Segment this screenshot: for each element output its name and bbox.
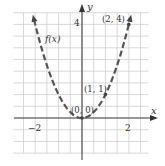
point-label-1-1: (1, 1)	[84, 84, 107, 94]
x-tick-label-neg2: −2	[28, 123, 41, 133]
x-tick-label-2: 2	[125, 123, 131, 133]
point-label-0-0: (0, 0)	[71, 105, 94, 115]
y-axis-arrow-icon	[79, 4, 85, 12]
y-axis-label: y	[86, 1, 93, 12]
function-label: f(x)	[44, 34, 61, 44]
curve-left-arrow-icon	[32, 15, 38, 23]
y-tick-label-4: 4	[74, 18, 80, 28]
data-point	[80, 116, 84, 120]
point-label-2-4: (2, 4)	[102, 14, 125, 24]
data-point	[127, 23, 131, 27]
x-axis-label: x	[151, 105, 157, 116]
parabola-graph: y x 4 −2 2 f(x) (2, 4) (1, 1) (0, 0)	[0, 0, 165, 166]
curve-right-arrow-icon	[127, 15, 133, 23]
